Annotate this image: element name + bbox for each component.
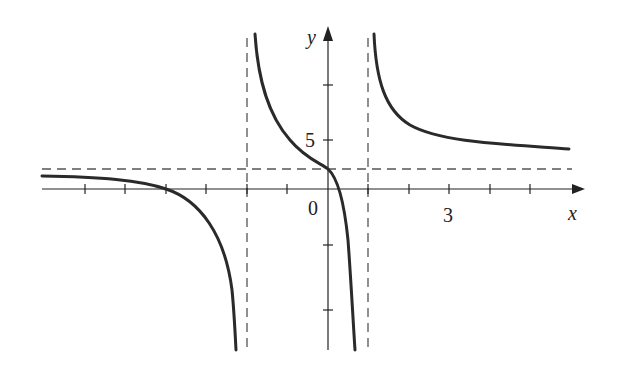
- y-axis-arrow-icon: [323, 26, 333, 41]
- y-axis: [323, 40, 333, 350]
- x-axis: [42, 184, 575, 194]
- curve-branch-right: [374, 34, 569, 149]
- asymptotes: [42, 38, 572, 350]
- x-axis-label: x: [567, 202, 577, 224]
- x-tick-label-3: 3: [443, 204, 453, 226]
- origin-label: 0: [308, 197, 318, 219]
- x-axis-arrow-icon: [572, 184, 585, 194]
- y-tick-label-5: 5: [305, 129, 315, 151]
- curve-branch-middle: [255, 34, 355, 350]
- y-axis-label: y: [305, 26, 316, 49]
- rational-function-graph: y x 0 3 5: [0, 0, 623, 372]
- curve-branch-left: [42, 176, 236, 350]
